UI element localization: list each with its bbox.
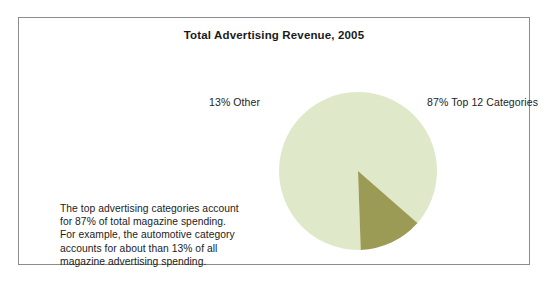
pie-label-top12: 87% Top 12 Categories bbox=[427, 96, 538, 108]
caption-line: For example, the automotive category bbox=[60, 228, 270, 241]
caption-line: accounts for about than 13% of all bbox=[60, 242, 270, 255]
pie-label-other: 13% Other bbox=[209, 96, 260, 108]
pie-chart-svg bbox=[260, 63, 440, 263]
caption-line: The top advertising categories account bbox=[60, 202, 270, 215]
scanned-page: Total Advertising Revenue, 2005 13% Othe… bbox=[0, 0, 553, 281]
page-title: Total Advertising Revenue, 2005 bbox=[19, 29, 529, 41]
pie-chart bbox=[260, 63, 440, 263]
figure-caption: The top advertising categories account f… bbox=[60, 202, 270, 268]
caption-line: magazine advertising spending. bbox=[60, 255, 270, 268]
caption-line: for 87% of total magazine spending. bbox=[60, 215, 270, 228]
pie-slice-top12 bbox=[276, 89, 439, 252]
figure-frame: Total Advertising Revenue, 2005 13% Othe… bbox=[18, 17, 530, 265]
